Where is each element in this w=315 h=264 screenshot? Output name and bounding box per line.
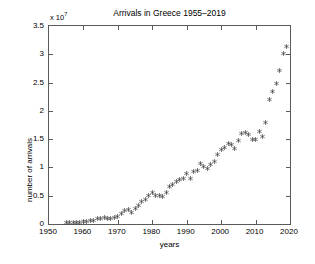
x-tick-mark-top: [221, 26, 222, 30]
y-tick-mark: [49, 83, 53, 84]
x-tick-mark-top: [187, 26, 188, 30]
y-tick-label: 2: [40, 105, 44, 114]
chart-title: Arrivals in Greece 1955–2019: [48, 8, 291, 19]
data-point-marker: [150, 190, 155, 195]
data-point-marker: [108, 216, 113, 221]
x-tick-label: 2020: [280, 227, 298, 237]
y-axis-title-wrapper: number of arrivals: [14, 65, 26, 185]
data-point-marker: [226, 141, 231, 146]
data-point-marker: [88, 218, 93, 223]
data-point-marker: [71, 220, 76, 225]
x-tick-label: 2010: [246, 227, 264, 237]
x-tick-mark: [221, 220, 222, 224]
data-point-marker: [267, 97, 272, 102]
data-point-marker: [129, 210, 134, 215]
plot-frame: [48, 25, 291, 225]
y-tick-mark: [49, 54, 53, 55]
data-point-marker: [160, 194, 165, 199]
data-point-marker: [277, 68, 282, 73]
x-tick-label: 1960: [74, 227, 92, 237]
x-axis-tick-labels: 19501960197019801990200020102020: [48, 227, 291, 239]
figure-canvas: Arrivals in Greece 1955–2019 x 107 00.51…: [0, 0, 315, 264]
data-point-marker: [222, 145, 227, 150]
x-tick-label: 1980: [142, 227, 160, 237]
data-point-marker: [146, 193, 151, 198]
y-tick-label: 3: [40, 49, 44, 58]
data-point-marker: [174, 179, 179, 184]
scatter-plot-area: [49, 26, 290, 224]
y-tick-mark-right: [286, 111, 290, 112]
data-point-marker: [67, 220, 72, 225]
data-point-marker: [229, 142, 234, 147]
data-point-marker: [91, 218, 96, 223]
data-point-marker: [274, 81, 279, 86]
y-axis-exponent-label: x 107: [50, 10, 67, 22]
x-tick-mark: [187, 220, 188, 224]
x-tick-mark-top: [256, 26, 257, 30]
data-point-marker: [181, 176, 186, 181]
data-point-marker: [198, 161, 203, 166]
data-point-marker: [133, 206, 138, 211]
y-tick-label: 3.5: [33, 21, 44, 30]
x-tick-label: 1970: [108, 227, 126, 237]
data-point-marker: [219, 147, 224, 152]
data-point-marker: [208, 162, 213, 167]
x-tick-mark-top: [118, 26, 119, 30]
data-point-marker: [119, 211, 124, 216]
y-tick-mark-right: [286, 196, 290, 197]
data-point-marker: [184, 171, 189, 176]
y-tick-mark: [49, 111, 53, 112]
x-tick-label: 1950: [39, 227, 57, 237]
data-point-marker: [102, 215, 107, 220]
data-point-marker: [170, 182, 175, 187]
data-point-marker: [84, 219, 89, 224]
data-point-marker: [232, 146, 237, 151]
data-point-marker: [215, 152, 220, 157]
data-point-marker: [257, 129, 262, 134]
x-tick-mark: [152, 220, 153, 224]
x-tick-label: 2000: [211, 227, 229, 237]
x-tick-mark-top: [83, 26, 84, 30]
y-tick-mark-right: [286, 54, 290, 55]
data-point-marker: [243, 130, 248, 135]
data-point-marker: [153, 193, 158, 198]
y-tick-mark: [49, 196, 53, 197]
data-point-marker: [236, 138, 241, 143]
data-point-marker: [115, 214, 120, 219]
data-point-marker: [212, 159, 217, 164]
y-axis-exponent-power: 7: [64, 11, 67, 17]
y-tick-label: 2.5: [33, 77, 44, 86]
data-point-marker: [105, 216, 110, 221]
data-point-marker: [143, 197, 148, 202]
data-point-marker: [74, 220, 79, 225]
data-point-marker: [281, 51, 286, 56]
x-tick-label: 1990: [177, 227, 195, 237]
data-point-marker: [246, 132, 251, 137]
x-tick-mark: [256, 220, 257, 224]
y-axis-exponent-base: x 10: [50, 13, 64, 22]
data-point-marker: [177, 177, 182, 182]
data-point-marker: [201, 164, 206, 169]
data-point-marker: [250, 137, 255, 142]
data-point-marker: [191, 169, 196, 174]
data-point-marker: [157, 193, 162, 198]
y-tick-mark-right: [286, 167, 290, 168]
data-point-marker: [139, 199, 144, 204]
y-tick-mark: [49, 139, 53, 140]
data-point-marker: [112, 215, 117, 220]
x-tick-mark-top: [152, 26, 153, 30]
data-point-marker: [122, 208, 127, 213]
y-tick-mark-right: [286, 139, 290, 140]
data-point-marker: [270, 89, 275, 94]
data-point-marker: [95, 216, 100, 221]
data-point-marker: [195, 168, 200, 173]
data-point-marker: [188, 176, 193, 181]
y-tick-label: 1: [40, 162, 44, 171]
y-tick-mark-right: [286, 83, 290, 84]
y-tick-mark: [49, 167, 53, 168]
data-point-marker: [64, 220, 69, 225]
data-point-marker: [260, 134, 265, 139]
data-point-marker: [263, 120, 268, 125]
data-point-marker: [136, 203, 141, 208]
data-point-marker: [239, 131, 244, 136]
